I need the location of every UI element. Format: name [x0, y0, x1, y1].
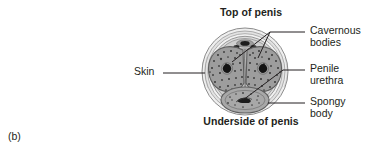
- label-penile-urethra: Penile urethra: [310, 63, 343, 87]
- label-spongy-body: Spongy body: [310, 96, 346, 120]
- label-penile-urethra-line2: urethra: [310, 75, 343, 87]
- label-spongy-body-line2: body: [310, 108, 346, 120]
- figure-letter: (b): [8, 131, 21, 143]
- label-cavernous-bodies-line1: Cavernous: [310, 25, 361, 37]
- label-spongy-body-line1: Spongy: [310, 96, 346, 108]
- cavernous-body-left: [209, 47, 244, 92]
- figure-penis-cross-section: Top of penis Underside of penis Skin Cav…: [0, 0, 386, 153]
- orientation-label-bottom: Underside of penis: [183, 116, 319, 128]
- septum: [245, 49, 246, 88]
- label-penile-urethra-line1: Penile: [310, 63, 343, 75]
- label-cavernous-bodies: Cavernous bodies: [310, 25, 361, 49]
- label-skin: Skin: [134, 66, 154, 78]
- spongy-body: [221, 87, 269, 113]
- label-cavernous-bodies-line2: bodies: [310, 37, 361, 49]
- orientation-label-top: Top of penis: [196, 7, 306, 19]
